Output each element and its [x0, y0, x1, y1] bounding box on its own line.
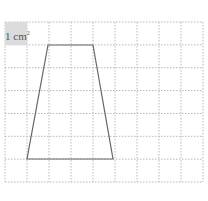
unit-label-text: 1 cm	[5, 30, 27, 42]
unit-exponent: 2	[27, 30, 30, 36]
unit-area-label: 1 cm2	[5, 22, 27, 45]
trapezoid-shape	[27, 45, 113, 159]
grid-diagram	[0, 0, 208, 201]
grid-lines	[5, 22, 203, 182]
